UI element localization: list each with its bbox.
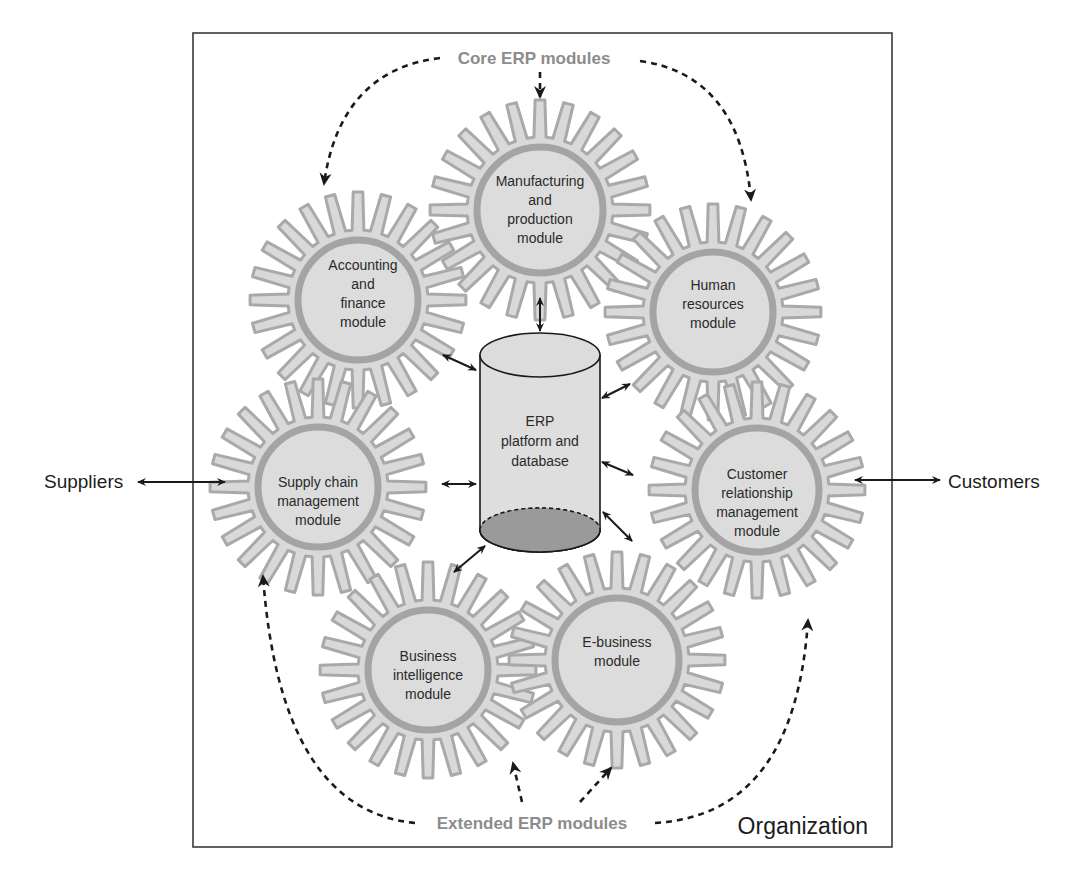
- module-human-resources-label: Human resources module: [682, 277, 743, 331]
- database-label-line-1: ERP: [526, 413, 555, 429]
- svg-text:resources: resources: [682, 296, 743, 312]
- svg-text:module: module: [295, 512, 341, 528]
- svg-text:module: module: [405, 686, 451, 702]
- gear-hub: [477, 147, 603, 273]
- svg-text:Manufacturing: Manufacturing: [496, 173, 585, 189]
- suppliers-label: Suppliers: [44, 471, 123, 492]
- organization-label: Organization: [738, 813, 868, 839]
- svg-text:relationship: relationship: [721, 485, 793, 501]
- svg-text:Customer: Customer: [727, 466, 788, 482]
- database-label-line-3: database: [511, 453, 569, 469]
- svg-text:and: and: [351, 276, 374, 292]
- svg-text:E-business: E-business: [582, 634, 651, 650]
- extended-erp-modules-label: Extended ERP modules: [437, 814, 628, 833]
- svg-text:Accounting: Accounting: [328, 257, 397, 273]
- customers-label: Customers: [948, 471, 1040, 492]
- gear-hub: [653, 252, 773, 372]
- erp-database-cylinder[interactable]: ERP platform and database: [480, 333, 600, 552]
- core-erp-modules-label: Core ERP modules: [458, 49, 611, 68]
- svg-text:intelligence: intelligence: [393, 667, 463, 683]
- svg-text:management: management: [277, 493, 359, 509]
- svg-text:and: and: [528, 192, 551, 208]
- database-label-line-2: platform and: [501, 433, 579, 449]
- erp-diagram: ERP platform and database Manufacturing …: [0, 0, 1079, 875]
- svg-text:Business: Business: [400, 648, 457, 664]
- svg-text:management: management: [716, 504, 798, 520]
- svg-text:Supply chain: Supply chain: [278, 474, 358, 490]
- svg-text:module: module: [340, 314, 386, 330]
- svg-text:module: module: [734, 523, 780, 539]
- svg-text:module: module: [594, 653, 640, 669]
- svg-text:module: module: [690, 315, 736, 331]
- svg-text:production: production: [507, 211, 572, 227]
- svg-text:Human: Human: [690, 277, 735, 293]
- svg-text:finance: finance: [340, 295, 385, 311]
- svg-text:module: module: [517, 230, 563, 246]
